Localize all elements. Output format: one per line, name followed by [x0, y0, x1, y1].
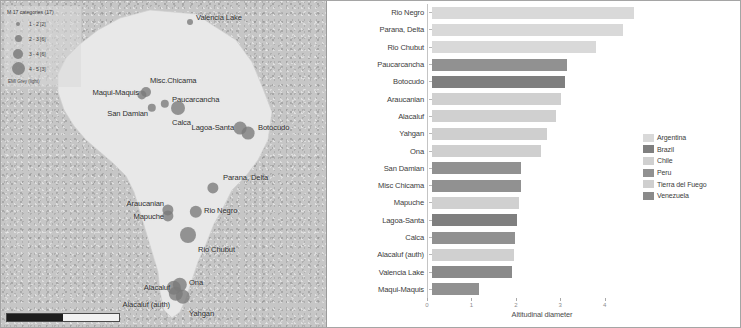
legend-item[interactable]: Chile [643, 155, 707, 167]
value-axis-tick [516, 298, 517, 301]
map-scale-bar [6, 313, 120, 322]
bar-rect[interactable] [432, 110, 556, 122]
bar-rect[interactable] [432, 93, 561, 105]
value-axis-tick-label: 0 [425, 302, 428, 308]
bar-rect[interactable] [432, 162, 521, 174]
map-panel[interactable]: M 17 categories (17) 1 - 2 [2] 2 - 3 [6]… [0, 0, 327, 328]
bar-track [432, 281, 657, 298]
bar-rect[interactable] [432, 76, 565, 88]
map-point-bubble[interactable] [187, 19, 193, 25]
map-point-label: Alacaluf (auth) [123, 300, 170, 309]
value-axis-tick [605, 298, 606, 301]
value-axis-tick-label: 4 [603, 302, 606, 308]
map-legend-bubble-icon [7, 22, 29, 26]
bar-rect[interactable] [432, 145, 541, 157]
map-point-label: Botocudo [258, 123, 289, 132]
map-point-label: Valencia Lake [196, 13, 242, 22]
bar-row[interactable]: Valencia Lake [327, 263, 657, 280]
bar-rect[interactable] [432, 197, 519, 209]
legend-item[interactable]: Brazil [643, 144, 707, 156]
map-point-label: Lagoa-Santa [192, 123, 234, 132]
map-legend-label: 4 - 5 [3] [29, 66, 46, 72]
bar-rect[interactable] [432, 180, 521, 192]
bar-category-label: Alacaluf [327, 112, 429, 121]
bar-row[interactable]: Lagoa-Santa [327, 212, 657, 229]
bar-track [432, 73, 657, 90]
map-point-bubble[interactable] [180, 227, 196, 243]
bar-row[interactable]: Araucanian [327, 90, 657, 107]
bar-category-label: Parana, Delta [327, 25, 429, 34]
bar-row[interactable]: Yahgan [327, 125, 657, 142]
bar-row[interactable]: Rio Negro [327, 4, 657, 21]
bar-row[interactable]: Parana, Delta [327, 21, 657, 38]
map-point-bubble[interactable] [171, 101, 185, 115]
value-axis-tick [427, 298, 428, 301]
category-axis-line [427, 4, 428, 298]
bar-row[interactable]: Ona [327, 142, 657, 159]
legend-item-label: Chile [657, 157, 672, 164]
value-axis-tick-label: 3 [559, 302, 562, 308]
bar-track [432, 39, 657, 56]
bar-row[interactable]: Alacaluf (auth) [327, 246, 657, 263]
legend-color-swatch [643, 169, 654, 177]
map-legend-row: 1 - 2 [2] [7, 16, 79, 31]
map-legend-bubble-icon [7, 62, 29, 75]
bar-row[interactable]: Alacaluf [327, 108, 657, 125]
value-axis-tick [560, 298, 561, 301]
legend-item[interactable]: Tierra del Fuego [643, 178, 707, 190]
map-legend-footer: EMI Grey (light) [7, 79, 79, 84]
country-color-legend: ArgentinaBrazilChilePeruTierra del Fuego… [643, 132, 707, 202]
bar-track [432, 263, 657, 280]
map-legend-bubble-icon [7, 49, 29, 59]
bar-track [432, 246, 657, 263]
map-point-label: San Damian [107, 109, 148, 118]
bar-rect[interactable] [432, 214, 517, 226]
bar-rect[interactable] [432, 283, 479, 295]
value-axis-tick [471, 298, 472, 301]
bar-row[interactable]: Rio Chubut [327, 39, 657, 56]
bar-track [432, 90, 657, 107]
bar-chart-plot-area: Rio NegroParana, DeltaRio ChubutPaucarca… [327, 4, 657, 298]
map-point-label: Mapuche [133, 212, 164, 221]
bar-row[interactable]: Calca [327, 229, 657, 246]
bar-row[interactable]: Botocudo [327, 73, 657, 90]
bar-rect[interactable] [432, 249, 514, 261]
legend-color-swatch [643, 180, 654, 188]
legend-item-label: Brazil [657, 146, 674, 153]
map-point-bubble[interactable] [242, 127, 255, 140]
map-size-legend: M 17 categories (17) 1 - 2 [2] 2 - 3 [6]… [4, 6, 81, 87]
map-legend-row: 3 - 4 [6] [7, 46, 79, 61]
value-axis-tick-label: 1 [470, 302, 473, 308]
bar-track [432, 177, 657, 194]
bar-rect[interactable] [432, 24, 623, 36]
map-point-label: Yahgan [189, 309, 214, 318]
bar-row[interactable]: Mapuche [327, 194, 657, 211]
bar-rect[interactable] [432, 41, 596, 53]
legend-item[interactable]: Argentina [643, 132, 707, 144]
legend-item[interactable]: Venezuela [643, 190, 707, 202]
bar-chart-panel: Rio NegroParana, DeltaRio ChubutPaucarca… [327, 0, 741, 328]
bar-rect[interactable] [432, 7, 634, 19]
bar-rect[interactable] [432, 59, 567, 71]
bar-category-label: Mapuche [327, 198, 429, 207]
bar-row[interactable]: Paucarcancha [327, 56, 657, 73]
bar-category-label: Ona [327, 147, 429, 156]
bar-rect[interactable] [432, 266, 512, 278]
bar-category-label: Alacaluf (auth) [327, 250, 429, 259]
bar-rect[interactable] [432, 128, 547, 140]
bar-rect[interactable] [432, 232, 515, 244]
bar-category-label: Calca [327, 233, 429, 242]
bar-track [432, 108, 657, 125]
bar-track [432, 125, 657, 142]
legend-item[interactable]: Peru [643, 167, 707, 179]
bar-row[interactable]: Misc Chicama [327, 177, 657, 194]
bar-track [432, 160, 657, 177]
legend-color-swatch [643, 134, 654, 142]
bar-row[interactable]: Maqui-Maquis [327, 281, 657, 298]
map-point-label: Alacaluf [144, 283, 170, 292]
bar-row[interactable]: San Damian [327, 160, 657, 177]
bar-category-label: San Damian [327, 164, 429, 173]
bar-category-label: Maqui-Maquis [327, 285, 429, 294]
value-axis-title: Altitudinal diameter [427, 310, 657, 319]
map-legend-row: 4 - 5 [3] [7, 61, 79, 76]
